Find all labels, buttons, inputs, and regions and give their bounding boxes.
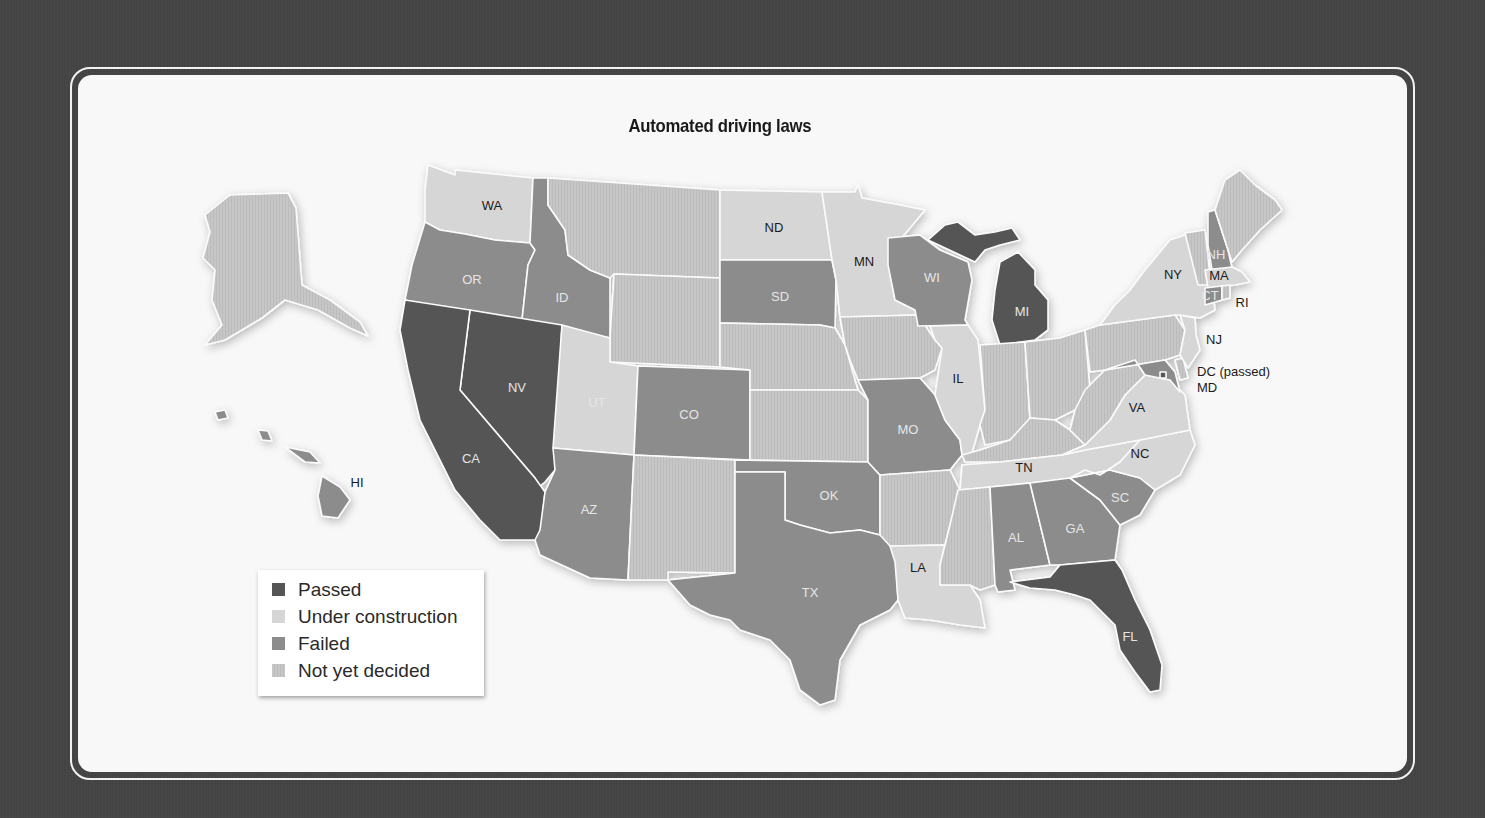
label-FL: FL (1122, 629, 1137, 644)
state-HI-1[interactable] (215, 410, 228, 420)
legend-label: Failed (298, 633, 350, 655)
us-map: WA OR ID NV CA UT AZ CO ND SD MN WI MI I… (0, 0, 1485, 818)
state-HI-2[interactable] (258, 430, 272, 441)
legend-item-failed: Failed (272, 630, 484, 657)
legend-label: Passed (298, 579, 361, 601)
label-GA: GA (1066, 521, 1085, 536)
state-HI-3[interactable] (285, 447, 320, 463)
label-CT: CT (1201, 288, 1218, 303)
legend-item-under-construction: Under construction (272, 603, 484, 630)
passed-swatch-icon (272, 583, 285, 596)
label-NY: NY (1164, 267, 1182, 282)
label-VA: VA (1129, 400, 1146, 415)
state-AK[interactable] (203, 193, 368, 345)
label-AL: AL (1008, 530, 1024, 545)
legend-item-not-yet-decided: Not yet decided (272, 657, 484, 684)
label-OR: OR (462, 272, 482, 287)
label-OK: OK (820, 488, 839, 503)
state-WY[interactable] (610, 274, 720, 367)
state-DC[interactable] (1160, 372, 1166, 378)
label-HI: HI (351, 475, 364, 490)
label-WI: WI (924, 270, 940, 285)
legend-item-passed: Passed (272, 576, 484, 603)
state-HI-4[interactable] (318, 476, 350, 518)
label-MN: MN (854, 254, 874, 269)
label-ND: ND (765, 220, 784, 235)
not-yet-decided-swatch-icon (272, 664, 285, 677)
state-MI[interactable] (992, 252, 1048, 345)
label-SD: SD (771, 289, 789, 304)
label-NV: NV (508, 380, 526, 395)
legend-label: Not yet decided (298, 660, 430, 682)
label-NC: NC (1131, 446, 1150, 461)
legend-label: Under construction (298, 606, 457, 628)
label-NJ: NJ (1206, 332, 1222, 347)
failed-swatch-icon (272, 637, 285, 650)
label-ID: ID (556, 290, 569, 305)
label-TN: TN (1015, 460, 1032, 475)
label-MA: MA (1209, 268, 1229, 283)
label-NH: NH (1207, 247, 1226, 262)
label-RI: RI (1236, 295, 1249, 310)
state-NM[interactable] (628, 455, 735, 580)
label-MD: MD (1197, 380, 1217, 395)
label-SC: SC (1111, 490, 1129, 505)
label-TX: TX (802, 585, 819, 600)
under-construction-swatch-icon (272, 610, 285, 623)
label-IL: IL (953, 371, 964, 386)
legend: Passed Under construction Failed Not yet… (258, 570, 484, 696)
label-MI: MI (1015, 304, 1029, 319)
state-NJ[interactable] (1180, 315, 1200, 368)
label-DC: DC (passed) (1197, 364, 1270, 379)
state-KS[interactable] (750, 390, 868, 462)
label-CA: CA (462, 451, 480, 466)
label-WA: WA (482, 198, 503, 213)
label-LA: LA (910, 560, 926, 575)
label-CO: CO (679, 407, 699, 422)
label-UT: UT (588, 395, 605, 410)
label-AZ: AZ (581, 502, 598, 517)
state-RI[interactable] (1222, 285, 1230, 300)
state-FL[interactable] (1010, 560, 1162, 692)
label-MO: MO (898, 422, 919, 437)
